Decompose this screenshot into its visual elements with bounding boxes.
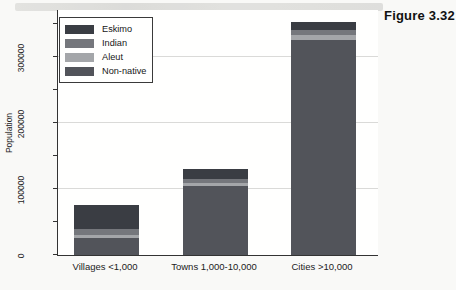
figure-3-32: Figure 3.32 EskimoIndianAleutNon-native … <box>0 0 456 290</box>
legend-swatch-indian <box>65 39 94 48</box>
legend-item-eskimo: Eskimo <box>65 22 145 36</box>
bar-2 <box>183 169 248 255</box>
x-category-label-2: Towns 1,000-10,000 <box>171 261 257 272</box>
y-tick-100000 <box>53 188 57 189</box>
y-tick-label-300000: 300000 <box>16 43 26 71</box>
legend-label-aleut: Aleut <box>102 52 123 62</box>
legend-label-eskimo: Eskimo <box>102 24 132 34</box>
legend-item-non-native: Non-native <box>65 64 145 78</box>
y-tick-label-100000: 100000 <box>16 176 26 204</box>
bar-segment-eskimo-2 <box>183 169 248 179</box>
bar-segment-eskimo-3 <box>291 22 356 30</box>
y-tick-150000 <box>53 155 57 156</box>
y-tick-50000 <box>53 221 57 222</box>
legend-swatch-non-native <box>65 67 94 76</box>
chart-legend: EskimoIndianAleutNon-native <box>59 17 153 83</box>
bar-3 <box>291 22 356 255</box>
figure-caption-label: Figure 3.32 <box>384 8 455 23</box>
x-category-label-1: Villages <1,000 <box>72 261 137 272</box>
legend-label-non-native: Non-native <box>102 66 146 76</box>
legend-item-indian: Indian <box>65 36 145 50</box>
y-tick-300000 <box>53 56 57 57</box>
y-tick-0 <box>53 254 57 255</box>
y-tick-label-0: 0 <box>16 254 26 259</box>
y-axis-title: Population <box>4 113 14 153</box>
bar-segment-non-native-2 <box>183 186 248 255</box>
y-tick-200000 <box>53 122 57 123</box>
legend-swatch-aleut <box>65 53 94 62</box>
y-tick-label-200000: 200000 <box>16 110 26 138</box>
y-tick-350000 <box>53 23 57 24</box>
bar-segment-non-native-1 <box>74 238 139 255</box>
legend-label-indian: Indian <box>102 38 127 48</box>
bar-1 <box>74 205 139 255</box>
legend-swatch-eskimo <box>65 25 94 34</box>
legend-item-aleut: Aleut <box>65 50 145 64</box>
bar-segment-non-native-3 <box>291 40 356 255</box>
y-tick-250000 <box>53 89 57 90</box>
plot-area: EskimoIndianAleutNon-native <box>57 10 378 256</box>
bar-segment-eskimo-1 <box>74 205 139 228</box>
x-category-label-3: Cities >10,000 <box>292 261 353 272</box>
